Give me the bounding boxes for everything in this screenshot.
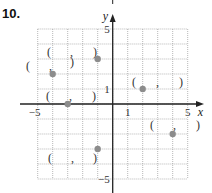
- x-axis-label: x: [197, 105, 204, 119]
- point-label-paren: (: [150, 118, 154, 132]
- x-tick-label: −5: [29, 106, 41, 118]
- point-label-paren: (: [132, 75, 136, 89]
- data-point: [95, 56, 101, 62]
- point-label-paren: ,: [49, 59, 52, 73]
- y-tick-label: −5: [98, 173, 110, 185]
- point-label-paren: ): [179, 75, 183, 89]
- data-point: [140, 86, 146, 92]
- point-label-paren: ,: [156, 75, 159, 89]
- point-label-paren: ): [92, 89, 96, 103]
- point-label-paren: (: [26, 59, 30, 73]
- point-label-paren: ,: [71, 151, 74, 165]
- point-label-paren: ,: [70, 45, 73, 59]
- point-label-paren: (: [48, 151, 52, 165]
- y-tick-label: 1: [104, 83, 110, 95]
- y-axis-arrow-icon: [110, 14, 116, 22]
- data-point: [65, 101, 71, 107]
- data-point: [170, 131, 176, 137]
- point-label-paren: (: [47, 45, 51, 59]
- y-axis-label: y: [102, 9, 109, 23]
- point-label-paren: ,: [69, 89, 72, 103]
- point-label-paren: ,: [173, 118, 176, 132]
- x-tick-label: 5: [185, 106, 191, 118]
- point-label-paren: ): [93, 151, 97, 165]
- coordinate-plane: xy −51551−5 (,)(,)(,)(,)(,)(,): [0, 0, 212, 193]
- y-tick-label: 5: [104, 23, 110, 35]
- data-point: [50, 71, 56, 77]
- x-tick-label: 1: [125, 106, 131, 118]
- point-label-paren: ): [196, 118, 200, 132]
- data-point: [95, 146, 101, 152]
- point-label-paren: (: [46, 89, 50, 103]
